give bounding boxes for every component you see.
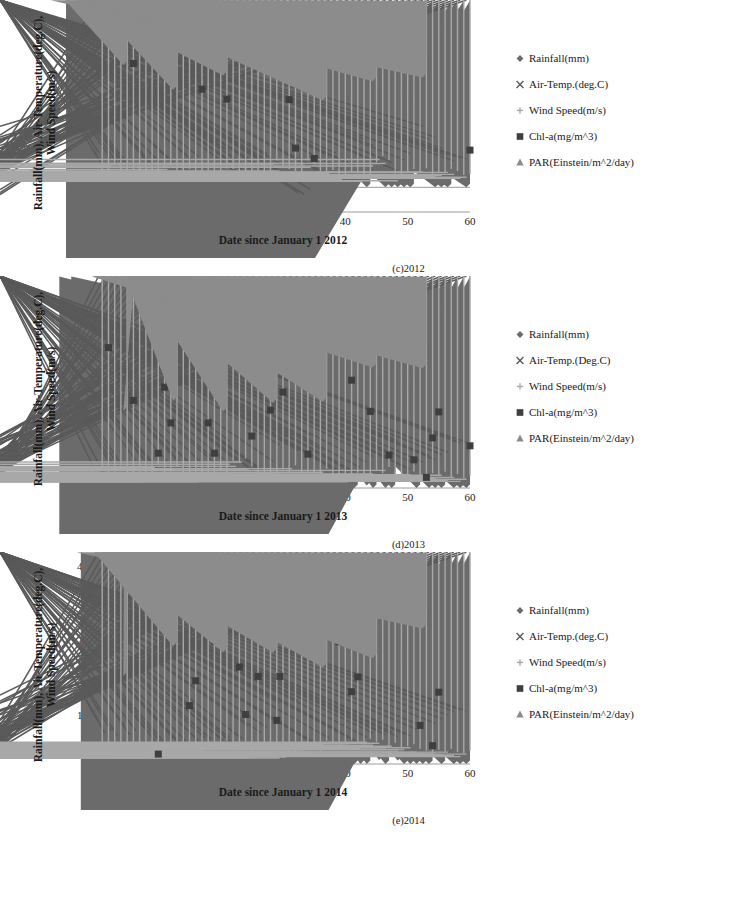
svg-text:Wind Speed(m/s): Wind Speed(m/s) <box>45 623 58 708</box>
svg-text:50: 50 <box>402 767 414 779</box>
panel-caption-wrap: (c)2012 <box>0 258 737 276</box>
svg-text:Wind Speed(m/s): Wind Speed(m/s) <box>45 347 58 432</box>
svg-text:Rainfall(mm), Air-Temperature(: Rainfall(mm), Air-Temperature(deg.C), <box>32 568 45 763</box>
chart-panel-e2014: 05101520253035400102030405060Date since … <box>0 552 737 828</box>
scatter-plot-1: 0510152025303540450102030405060Date sinc… <box>0 276 737 534</box>
svg-text:50: 50 <box>402 491 414 503</box>
scatter-plot-2: 05101520253035400102030405060Date since … <box>0 552 737 810</box>
panel-caption: (e)2014 <box>392 815 425 826</box>
svg-text:Rainfall(mm): Rainfall(mm) <box>529 52 589 65</box>
panel-caption: (c)2012 <box>392 263 425 274</box>
svg-text:Chl-a(mg/m^3): Chl-a(mg/m^3) <box>529 130 597 143</box>
chart-panel-d2013: 0510152025303540450102030405060Date sinc… <box>0 276 737 552</box>
svg-text:Rainfall(mm), Air-Temperature(: Rainfall(mm), Air-Temperature(deg.C), <box>32 16 45 211</box>
svg-text:Date since January 1 2013: Date since January 1 2013 <box>219 510 348 523</box>
panel-caption-wrap: (d)2013 <box>0 534 737 552</box>
svg-text:Air-Temp.(deg.C): Air-Temp.(deg.C) <box>529 78 608 91</box>
svg-text:60: 60 <box>465 767 477 779</box>
chart-panel-c2012: -5051015202530350102030405060Date since … <box>0 0 737 276</box>
svg-text:60: 60 <box>465 215 477 227</box>
svg-text:PAR(Einstein/m^2/day): PAR(Einstein/m^2/day) <box>529 432 634 445</box>
svg-text:Wind Speed(m/s): Wind Speed(m/s) <box>529 104 606 117</box>
svg-text:Air-Temp.(Deg.C): Air-Temp.(Deg.C) <box>529 354 611 367</box>
panel-caption: (d)2013 <box>392 539 425 550</box>
scatter-plot-0: -5051015202530350102030405060Date since … <box>0 0 737 258</box>
svg-text:40: 40 <box>340 215 352 227</box>
svg-text:Wind Speed(m/s): Wind Speed(m/s) <box>529 380 606 393</box>
svg-text:Chl-a(mg/m^3): Chl-a(mg/m^3) <box>529 406 597 419</box>
svg-text:Chl-a(mg/m^3): Chl-a(mg/m^3) <box>529 682 597 695</box>
svg-text:Rainfall(mm): Rainfall(mm) <box>529 328 589 341</box>
svg-text:Wind Speed(m/s): Wind Speed(m/s) <box>45 71 58 156</box>
svg-text:PAR(Einstein/m^2/day): PAR(Einstein/m^2/day) <box>529 708 634 721</box>
svg-text:Date since January 1 2012: Date since January 1 2012 <box>219 234 348 247</box>
svg-text:Rainfall(mm): Rainfall(mm) <box>529 604 589 617</box>
panel-caption-wrap: (e)2014 <box>0 810 737 828</box>
svg-text:60: 60 <box>465 491 477 503</box>
svg-text:Wind Speed(m/s): Wind Speed(m/s) <box>529 656 606 669</box>
svg-text:PAR(Einstein/m^2/day): PAR(Einstein/m^2/day) <box>529 156 634 169</box>
svg-text:Rainfall(mm), Air-Temperature(: Rainfall(mm), Air-Temperature(deg.C), <box>32 292 45 487</box>
svg-text:50: 50 <box>402 215 414 227</box>
svg-text:Air-Temp.(deg.C): Air-Temp.(deg.C) <box>529 630 608 643</box>
svg-text:Date since January 1 2014: Date since January 1 2014 <box>219 786 348 799</box>
figure-root: -5051015202530350102030405060Date since … <box>0 0 737 828</box>
